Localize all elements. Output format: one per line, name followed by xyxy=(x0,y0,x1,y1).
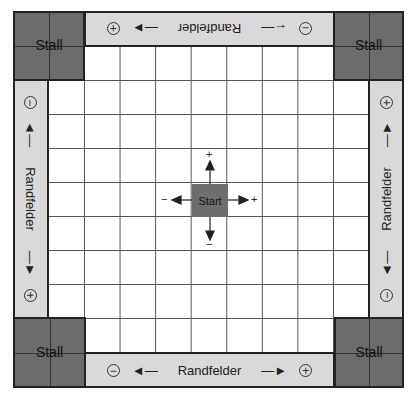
stall-label: Stall xyxy=(15,344,84,360)
arrow-down-icon: —► xyxy=(24,251,39,277)
plus-circle-icon: + xyxy=(299,364,312,377)
edge-label-top: Randfelder xyxy=(178,22,242,37)
edge-label-left: Randfelder xyxy=(24,167,39,231)
edge-label-right: Randfelder xyxy=(379,167,394,231)
start-down-sign: − xyxy=(206,238,212,250)
plus-circle-icon: + xyxy=(380,96,393,109)
plus-circle-icon: + xyxy=(25,289,38,302)
arrow-right-icon: —► xyxy=(261,363,287,378)
edge-band-left: − ◄— Randfelder —► + xyxy=(13,79,49,319)
edge-band-right: − ◄— Randfelder —► + xyxy=(368,79,404,319)
edge-band-bottom: − ◄— Randfelder —► + xyxy=(84,352,335,388)
grid-right-column xyxy=(333,80,369,318)
grid-bottom-row xyxy=(84,318,333,353)
stall-bottom-left: Stall xyxy=(13,317,86,388)
stall-top-right: Stall xyxy=(333,11,404,81)
grid-line xyxy=(48,80,369,81)
arrow-up-icon: ◄— xyxy=(24,121,39,147)
start-left-sign: − xyxy=(161,193,167,205)
start-up-sign: + xyxy=(206,148,212,160)
stall-label: Stall xyxy=(15,37,83,53)
minus-circle-icon: − xyxy=(107,364,120,377)
stall-bottom-right: Stall xyxy=(334,317,404,388)
start-right-sign: + xyxy=(251,193,257,205)
grid-line xyxy=(333,46,334,353)
stall-label: Stall xyxy=(335,37,402,53)
minus-circle-icon: − xyxy=(299,23,312,36)
stall-top-left: Stall xyxy=(13,11,85,81)
minus-circle-icon: − xyxy=(380,289,393,302)
edge-band-top: − ←— Randfelder —► + xyxy=(84,11,335,47)
grid-left-column xyxy=(48,80,84,318)
arrow-up-icon: —► xyxy=(379,121,394,147)
arrow-down-icon: ◄— xyxy=(379,251,394,277)
grid-line xyxy=(84,46,85,353)
stall-label: Stall xyxy=(336,344,402,360)
arrow-left-icon: ◄— xyxy=(132,363,158,378)
plus-circle-icon: + xyxy=(107,23,120,36)
edge-label-bottom: Randfelder xyxy=(178,363,242,378)
grid-top-row xyxy=(84,46,333,80)
grid-line xyxy=(48,318,369,319)
minus-circle-icon: − xyxy=(25,96,38,109)
